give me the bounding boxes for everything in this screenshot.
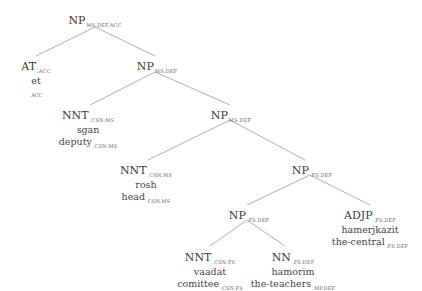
node-at: AT.ACC et .ACC	[21, 57, 50, 98]
token-word: rosh	[120, 180, 172, 190]
node-label: AT	[21, 60, 36, 73]
token-gloss-features: .ACC	[21, 93, 50, 98]
token-gloss-features: .CSN.MS	[93, 143, 117, 149]
node-label: ADJP	[344, 209, 373, 222]
edge-np3-np4	[247, 175, 310, 205]
node-features: .CSN.MS	[148, 172, 172, 178]
node-features: .CSN.MS	[90, 117, 114, 123]
node-label: NP	[68, 14, 85, 27]
token-gloss-features: .CSN.MS	[146, 198, 170, 204]
node-adjp-hamerjkazit: ADJP.FS.DEF hamerjkazit the-central.FS.D…	[332, 206, 408, 249]
edge-np1-np2	[155, 72, 230, 105]
token-gloss: the-teachers	[251, 278, 311, 289]
edge-np4-nn	[247, 220, 285, 246]
node-nnt-sgan: NNT.CSN.MS sgan deputy.CSN.MS	[59, 106, 118, 149]
token-gloss-features: .MP.DEF	[312, 285, 335, 291]
node-features: MS.DEF.ACC	[86, 22, 121, 28]
node-features: .FS.DEF	[247, 217, 269, 223]
node-label: NNT	[185, 251, 212, 264]
node-nnt-rosh: NNT.CSN.MS rosh head.CSN.MS	[120, 161, 172, 204]
node-label: NN	[272, 251, 291, 264]
edge-np3-adjp	[310, 175, 370, 205]
node-label: NP	[137, 60, 154, 73]
node-label: NP	[229, 209, 246, 222]
node-label: NP	[211, 109, 228, 122]
node-nn-hamorim: NN.FS.DEF hamorim the-teachers.MP.DEF	[251, 248, 336, 291]
edge-root-np1	[95, 27, 155, 56]
node-np-fs-def-2: NP.FS.DEF	[229, 206, 269, 223]
node-label: NNT	[120, 164, 147, 177]
edge-np2-nnt2	[148, 120, 230, 160]
token-word: et	[21, 76, 50, 86]
token-gloss: deputy	[59, 136, 92, 147]
node-np-fs-def-1: NP.FS.DEF	[292, 161, 332, 178]
node-features: MS.DEF	[155, 68, 177, 74]
token-word: sgan	[59, 125, 118, 135]
token-gloss: head	[122, 191, 146, 202]
edge-root-at	[36, 27, 95, 56]
node-features: .FS.DEF	[374, 217, 396, 223]
edge-np1-nnt1	[90, 72, 155, 105]
node-np-ms-def-2: NPMS.DEF	[211, 106, 251, 123]
token-word: hamerjkazit	[332, 225, 408, 235]
node-np-ms-def-1: NPMS.DEF	[137, 57, 177, 74]
node-features: .FS.DEF	[292, 259, 314, 265]
node-nnt-vaadat: NNT.CSN.FS vaadat comittee.CSN.FS	[177, 248, 243, 291]
token-gloss-features: .CSN.FS	[220, 285, 243, 291]
token-word: vaadat	[177, 267, 243, 277]
node-label: NNT	[62, 109, 89, 122]
node-root-np: NPMS.DEF.ACC	[68, 11, 121, 28]
node-label: NP	[292, 164, 309, 177]
edge-np2-np3	[230, 120, 305, 160]
token-gloss: comittee	[177, 278, 219, 289]
node-features: MS.DEF	[229, 117, 251, 123]
edge-np4-nnt3	[210, 220, 247, 246]
token-word: hamorim	[251, 267, 336, 277]
token-gloss: the-central	[332, 236, 385, 247]
token-gloss-features: .FS.DEF	[386, 243, 408, 249]
node-features: .ACC	[37, 68, 51, 74]
node-features: .FS.DEF	[310, 172, 332, 178]
node-features: .CSN.FS	[212, 259, 235, 265]
